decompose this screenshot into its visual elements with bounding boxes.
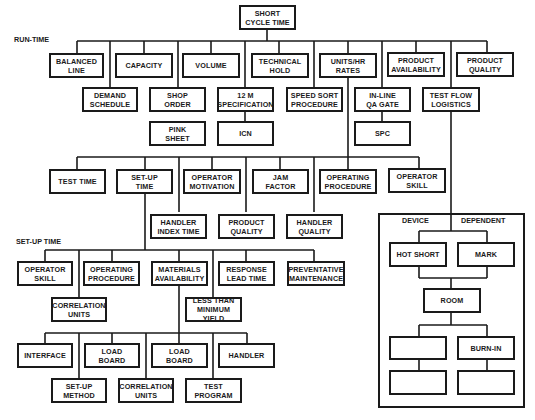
interface-box: INTERFACE [17,343,73,368]
set-up-method-text: SET-UP METHOD [63,382,95,400]
operator-motivation-text: OPERATOR MOTIVATION [189,173,234,191]
mark-box: MARK [457,242,515,267]
response-lead-time-text: RESPONSE LEAD TIME [226,265,267,283]
handler-text: HANDLER [229,351,265,360]
capacity-text: CAPACITY [125,61,162,70]
12m-specification-text: 12 M SPECIFICATION [217,91,273,109]
handler-index-time-box: HANDLER INDEX TIME [150,214,207,239]
run-time-label: RUN-TIME [14,35,49,44]
burn-in-box: BURN-IN [457,336,515,360]
su-correlation-units-box: CORRELATION UNITS [51,297,107,322]
jam-factor-box: JAM FACTOR [252,169,309,194]
icn-text: ICN [239,129,252,138]
shop-order-box: SHOP ORDER [149,87,206,112]
handler-quality-box: HANDLER QUALITY [286,214,343,239]
materials-availability-text: MATERIALS AVAILABILITY [155,265,205,283]
preventative-maintenance-text: PREVENTATIVE MAINTENANCE [288,265,343,283]
handler-quality-text: HANDLER QUALITY [297,218,333,236]
product-availability-text: PRODUCT AVAILABILITY [391,56,441,74]
units-hr-rates-text: UNITS/HR RATES [331,57,366,75]
product-quality-2-text: PRODUCT QUALITY [228,218,264,236]
mat-correlation-units-text: CORRELATION UNITS [119,382,172,400]
balanced-line-text: BALANCED LINE [56,57,97,75]
spc-text: SPC [375,129,390,138]
operator-skill-box: OPERATOR SKILL [388,168,446,193]
handler-index-time-text: HANDLER INDEX TIME [157,218,199,236]
inline-qa-gate-box: IN-LINE QA GATE [354,87,411,112]
operator-motivation-box: OPERATOR MOTIVATION [183,169,241,194]
pink-sheet-box: PINK SHEET [149,121,206,146]
dependent-label: DEPENDENT [461,216,505,225]
demand-schedule-text: DEMAND SCHEDULE [90,91,130,109]
test-flow-logistics-text: TEST FLOW LOGISTICS [430,91,472,109]
technical-hold-text: TECHNICAL HOLD [259,57,301,75]
blank-right-2-box [457,370,515,395]
capacity-box: CAPACITY [115,53,173,78]
short-cycle-time-text: SHORT CYCLE TIME [245,9,290,27]
test-time-text: TEST TIME [58,177,96,186]
diagram-canvas: RUN-TIME SET-UP TIME SHORT CYCLE TIME BA… [0,0,535,420]
mark-text: MARK [475,250,497,259]
preventative-maintenance-box: PREVENTATIVE MAINTENANCE [287,261,345,286]
test-flow-logistics-box: TEST FLOW LOGISTICS [422,87,480,112]
product-availability-box: PRODUCT AVAILABILITY [387,52,445,77]
load-board-2-box: LOAD BOARD [151,343,208,368]
device-label: DEVICE [402,216,429,225]
units-hr-rates-box: UNITS/HR RATES [319,53,377,78]
test-time-box: TEST TIME [49,169,106,194]
burn-in-text: BURN-IN [470,344,501,353]
su-operator-skill-box: OPERATOR SKILL [17,261,73,286]
load-board-1-text: LOAD BOARD [99,347,126,365]
su-operating-procedure-text: OPERATING PROCEDURE [88,265,135,283]
less-than-min-yield-box: LESS THAN MINIMUM YIELD [185,297,242,322]
speed-sort-procedure-box: SPEED SORT PROCEDURE [286,87,343,112]
hot-short-text: HOT SHORT [396,250,439,259]
room-box: ROOM [423,288,481,313]
jam-factor-text: JAM FACTOR [265,173,295,191]
volume-box: VOLUME [182,53,240,78]
inline-qa-gate-text: IN-LINE QA GATE [366,91,399,109]
set-up-time-label: SET-UP TIME [16,237,61,246]
su-operator-skill-text: OPERATOR SKILL [25,265,66,283]
mat-correlation-units-box: CORRELATION UNITS [118,378,174,403]
spc-box: SPC [354,121,411,146]
product-quality-2-box: PRODUCT QUALITY [218,214,275,239]
blank-left-1-box [389,336,447,360]
shop-order-text: SHOP ORDER [164,91,190,109]
blank-left-2-box [389,370,447,395]
speed-sort-procedure-text: SPEED SORT PROCEDURE [291,91,338,109]
operating-procedure-box: OPERATING PROCEDURE [319,169,377,194]
load-board-1-box: LOAD BOARD [84,343,140,368]
icn-box: ICN [217,121,274,146]
operator-skill-text: OPERATOR SKILL [397,172,438,190]
less-than-min-yield-text: LESS THAN MINIMUM YIELD [187,296,240,323]
handler-box: HANDLER [218,343,275,368]
technical-hold-box: TECHNICAL HOLD [251,53,309,78]
test-program-text: TEST PROGRAM [194,382,232,400]
12m-specification-box: 12 M SPECIFICATION [217,87,274,112]
product-quality-text: PRODUCT QUALITY [467,56,503,74]
test-program-box: TEST PROGRAM [185,378,242,403]
balanced-line-box: BALANCED LINE [49,53,104,78]
materials-availability-box: MATERIALS AVAILABILITY [151,261,208,286]
room-text: ROOM [441,296,464,305]
product-quality-box: PRODUCT QUALITY [456,52,514,77]
demand-schedule-box: DEMAND SCHEDULE [82,87,138,112]
su-operating-procedure-box: OPERATING PROCEDURE [83,261,140,286]
hot-short-box: HOT SHORT [389,242,447,267]
response-lead-time-box: RESPONSE LEAD TIME [218,261,275,286]
volume-text: VOLUME [195,61,226,70]
operating-procedure-text: OPERATING PROCEDURE [325,173,372,191]
set-up-time-box: SET-UP TIME [116,169,173,194]
interface-text: INTERFACE [24,351,66,360]
set-up-method-box: SET-UP METHOD [51,378,107,403]
load-board-2-text: LOAD BOARD [166,347,193,365]
su-correlation-units-text: CORRELATION UNITS [52,301,105,319]
pink-sheet-text: PINK SHEET [165,125,189,143]
short-cycle-time-box: SHORT CYCLE TIME [239,5,296,30]
set-up-time-text: SET-UP TIME [131,173,158,191]
